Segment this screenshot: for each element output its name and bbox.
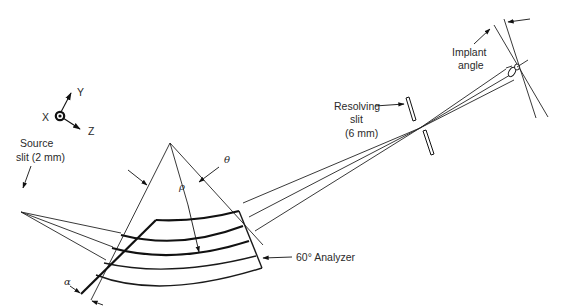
coordinate-axes: Y X Z (42, 86, 95, 137)
implant-label-line1: Implant (452, 46, 487, 58)
z-axis-arrow (63, 118, 80, 129)
resolving-label-line1: Resolving (334, 100, 380, 112)
source-slit: Source slit (2 mm) (16, 137, 65, 188)
resolving-label-line2: slit (350, 113, 363, 125)
rho-label: ρ (178, 181, 185, 192)
source-label-line1: Source (20, 137, 53, 149)
analyzer-beam-diagram: Y X Z Source slit (2 mm) ρ θ (0, 0, 561, 307)
implant-label-line2: angle (458, 59, 484, 71)
target-beam-rays (420, 69, 514, 128)
analyzer-label-group: 60° Analyzer (263, 251, 356, 263)
axis-y-label: Y (77, 86, 84, 98)
resolving-label-line3: (6 mm) (345, 127, 378, 139)
alpha-label: α (64, 276, 71, 287)
theta-label: θ (224, 154, 230, 165)
implant-target: Implant angle (452, 19, 548, 118)
axis-x-label: X (42, 111, 49, 123)
axis-z-label: Z (88, 125, 95, 137)
source-beam-rays (21, 212, 121, 260)
exit-beam-rays (243, 128, 420, 231)
y-axis-arrow (61, 93, 71, 112)
sector-geometry: ρ θ (91, 143, 263, 300)
analyzer-label: 60° Analyzer (296, 251, 356, 263)
analyzer-magnet (81, 211, 262, 294)
source-label-line2: slit (2 mm) (16, 151, 65, 163)
